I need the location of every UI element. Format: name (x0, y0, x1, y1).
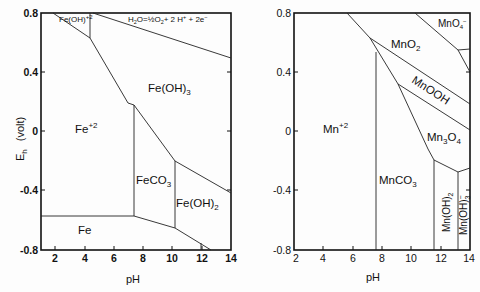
mn-xtick-14: 14 (463, 252, 475, 264)
mn-region-mn2: Mn+2 (323, 121, 349, 135)
mn-x-axis: 2 4 6 8 10 12 14 pH (293, 246, 475, 283)
mn-region-mnoh3: Mn(OH)3− (457, 195, 471, 235)
mn-ytick-0: 0 (285, 125, 291, 137)
fe-xtick-12: 12 (196, 252, 208, 264)
fe-y-label: Eh(volt) (14, 117, 29, 161)
mn-ytick-neg0.8: -0.8 (273, 244, 291, 256)
fe-y-axis: 0.8 0.4 0 -0.4 -0.8 (20, 7, 231, 256)
fe-xtick-4: 4 (82, 252, 88, 264)
fe-xtick-14: 14 (225, 252, 237, 264)
fe-xtick-6: 6 (111, 252, 117, 264)
mn-xtick-6: 6 (350, 252, 356, 264)
mn-region-mnco3: MnCO3 (379, 174, 417, 189)
fe-region-fe2: Fe+2 (75, 121, 98, 135)
fe-ytick-neg0.8: -0.8 (20, 244, 38, 256)
fe-ytick-0.4: 0.4 (23, 66, 38, 78)
fe-boundaries (41, 13, 231, 250)
fe-x-axis: 2 4 6 8 10 12 14 pH (52, 246, 237, 285)
fe-xtick-2: 2 (52, 252, 58, 264)
svg-text:Eh(volt): Eh(volt) (14, 117, 29, 161)
mn-xtick-2: 2 (293, 252, 299, 264)
fe-xtick-10: 10 (166, 252, 178, 264)
fe-region-feoh2: Fe(OH)+2 (59, 14, 93, 24)
mn-xtick-8: 8 (379, 252, 385, 264)
eh-ph-diagrams: 0.8 0.4 0 -0.4 -0.8 Eh(volt) 2 4 6 8 10 … (0, 0, 480, 292)
fe-region-feoh3: Fe(OH)3 (148, 82, 191, 97)
mn-xtick-4: 4 (320, 252, 326, 264)
mn-region-mn3o4: Mn3O4 (427, 131, 461, 146)
mn-diagram: 0.8 0.4 0 -0.4 -0.8 2 4 6 8 10 12 14 pH (273, 7, 475, 283)
fe-region-feco3: FeCO3 (136, 174, 172, 189)
mn-region-mnoh2: Mn(OH)2 (441, 192, 454, 232)
fe-region-feoh2b: Fe(OH)2 (176, 197, 219, 212)
fe-diagram: 0.8 0.4 0 -0.4 -0.8 Eh(volt) 2 4 6 8 10 … (14, 7, 237, 285)
fe-xtick-8: 8 (140, 252, 146, 264)
mn-ytick-0.4: 0.4 (276, 66, 291, 78)
mn-ytick-neg0.4: -0.4 (273, 184, 291, 196)
mn-xtick-10: 10 (405, 252, 417, 264)
mn-region-mno2: MnO2 (391, 38, 421, 53)
mn-ytick-0.8: 0.8 (276, 7, 291, 19)
mn-xtick-12: 12 (435, 252, 447, 264)
mn-x-label: pH (366, 271, 380, 283)
fe-ytick-0.8: 0.8 (23, 7, 38, 19)
fe-x-label: pH (126, 273, 140, 285)
fe-region-fe: Fe (78, 224, 91, 236)
water-equation: H2O=½O2+ 2 H+ + 2e− (128, 14, 208, 25)
mn-region-mno4: MnO4− (438, 18, 467, 30)
fe-ytick-0: 0 (32, 125, 38, 137)
fe-ytick-neg0.4: -0.4 (20, 184, 38, 196)
